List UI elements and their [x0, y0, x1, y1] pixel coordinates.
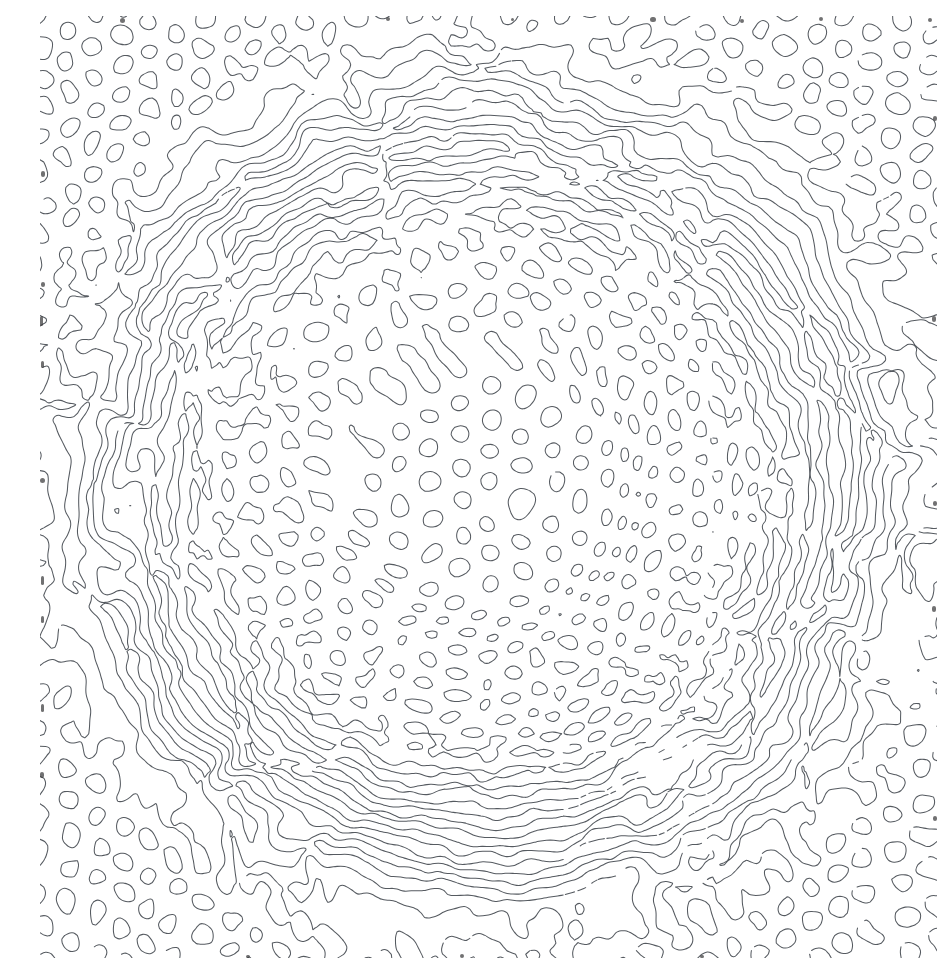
reaction-diffusion-canvas: [40, 16, 937, 958]
turing-pattern-figure: Radially graded Turing pattern: isolated…: [40, 16, 937, 958]
